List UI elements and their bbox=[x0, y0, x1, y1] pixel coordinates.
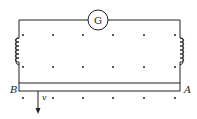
label-a: A bbox=[183, 84, 191, 95]
left-coil-icon bbox=[15, 38, 19, 65]
arrowhead-icon bbox=[36, 108, 41, 114]
galvanometer-label: G bbox=[94, 15, 102, 26]
conducting-rod bbox=[19, 83, 180, 91]
magnetic-field-dots bbox=[22, 34, 176, 99]
right-coil-icon bbox=[180, 38, 184, 65]
velocity-label: v bbox=[42, 93, 47, 102]
label-b: B bbox=[9, 84, 17, 95]
circuit-diagram: G B A v bbox=[0, 0, 197, 119]
